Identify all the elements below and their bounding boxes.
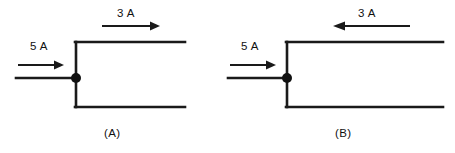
panel-b-caption: (B) [335, 128, 352, 140]
panel-b-input-current-arrow [230, 61, 276, 70]
panel-a-branch-current-arrow [102, 22, 160, 31]
panel-a-input-current-label: 5 A [30, 41, 48, 53]
panel-b-branch-current-arrow [333, 22, 410, 31]
panel-b-circuit [228, 42, 443, 107]
figure-container: 5 A 3 A (A) 5 A 3 A (B) [0, 0, 455, 153]
panel-a-branch-current-label: 3 A [117, 8, 135, 20]
panel-b-junction-node [282, 73, 292, 83]
panel-a-input-current-arrow [18, 61, 64, 70]
circuit-diagram-svg [0, 0, 455, 153]
panel-b-branch-current-label: 3 A [358, 8, 376, 20]
panel-a-junction-node [71, 73, 81, 83]
panel-a-caption: (A) [104, 128, 121, 140]
panel-b-input-current-label: 5 A [241, 41, 259, 53]
